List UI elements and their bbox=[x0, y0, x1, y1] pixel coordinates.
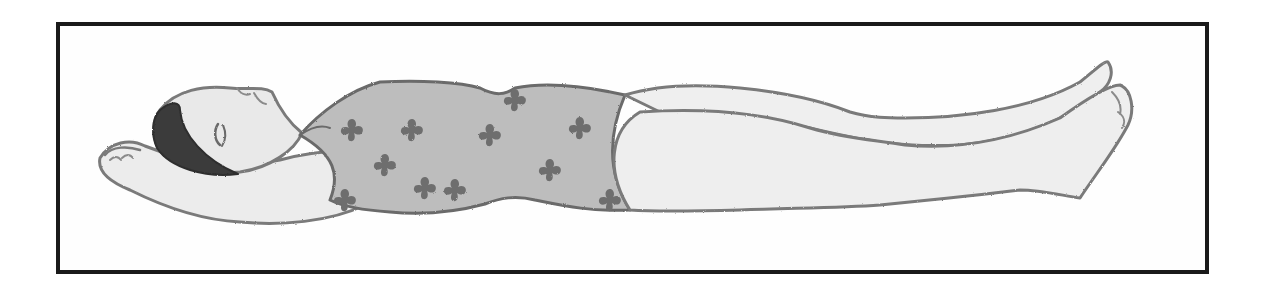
reclining-woman-illustration bbox=[0, 0, 1268, 285]
swimsuit-torso bbox=[300, 81, 630, 213]
legs bbox=[614, 62, 1132, 211]
